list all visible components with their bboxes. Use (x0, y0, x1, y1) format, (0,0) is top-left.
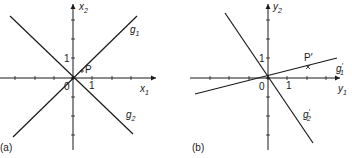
y2-tick-label: 1 (259, 53, 265, 64)
g2-prime-label: g′2 (303, 108, 311, 122)
origin-label-b: 0 (259, 81, 265, 92)
g1-prime-label: g′1 (336, 62, 344, 76)
panel-b: P′ 0 1 1 y1 y2 g′1 g′2 (b) (190, 1, 347, 153)
point-p-label: P (85, 64, 92, 75)
y2-axis-label: y2 (272, 1, 282, 14)
origin-label: 0 (64, 81, 70, 92)
panel-a-caption: (a) (0, 142, 12, 153)
point-p-marker (80, 69, 84, 73)
x2-axis-label: x2 (78, 1, 88, 14)
line-g1-prime (195, 58, 337, 94)
y1-axis-label: y1 (337, 83, 347, 96)
origin-dot (71, 76, 75, 80)
panel-a: P 0 1 1 x1 x2 g1 g2 (a) (0, 1, 156, 153)
figure-canvas: P 0 1 1 x1 x2 g1 g2 (a) (0, 0, 352, 158)
x1-tick-label: 1 (89, 80, 95, 91)
panel-b-caption: (b) (192, 142, 204, 153)
x2-tick-label: 1 (64, 53, 70, 64)
point-p-prime-label: P′ (304, 52, 313, 63)
g1-label: g1 (130, 24, 140, 37)
y1-tick-label: 1 (286, 80, 292, 91)
line-g1 (13, 16, 137, 137)
origin-dot-b (266, 76, 269, 79)
g2-label: g2 (126, 109, 136, 122)
x1-axis-label: x1 (139, 83, 149, 96)
